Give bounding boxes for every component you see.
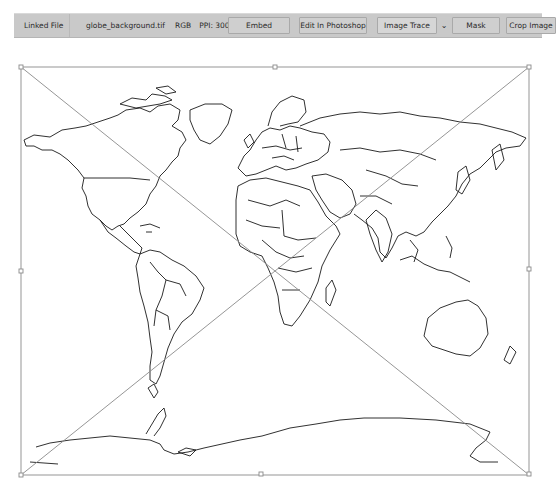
south-america-outline	[136, 250, 204, 384]
kamchatka	[492, 144, 504, 170]
handle-top-right[interactable]	[527, 65, 531, 69]
placed-image[interactable]	[0, 40, 554, 491]
embed-button[interactable]: Embed	[228, 17, 290, 34]
south-america-borders	[150, 262, 186, 330]
antarctic-peninsula	[146, 408, 166, 436]
control-bar: Linked File globe_background.tif RGB PPI…	[14, 13, 542, 38]
color-mode: RGB	[171, 21, 195, 30]
handle-top-center[interactable]	[273, 65, 277, 69]
mask-button[interactable]: Mask	[452, 17, 500, 34]
handle-top-left[interactable]	[19, 65, 23, 69]
handle-bottom-left[interactable]	[19, 473, 23, 477]
edit-in-photoshop-button[interactable]: Edit In Photoshop	[299, 17, 367, 34]
handle-middle-left[interactable]	[19, 269, 23, 273]
us-canada-border	[84, 178, 150, 180]
australia-outline	[424, 300, 488, 356]
tierra-del-fuego	[148, 384, 158, 398]
antarctica-small-shelf	[30, 448, 196, 464]
handle-bottom-right[interactable]	[527, 472, 531, 476]
europe-outline	[238, 126, 330, 176]
africa-borders	[246, 200, 316, 290]
file-name: globe_background.tif	[80, 21, 171, 30]
caribbean	[140, 224, 160, 232]
selection-bounding-box	[21, 67, 529, 475]
japan-outline	[456, 166, 470, 194]
handle-bottom-center[interactable]	[259, 472, 263, 476]
linked-file-label[interactable]: Linked File	[24, 21, 63, 30]
chevron-down-icon[interactable]: ⌄	[439, 17, 449, 34]
north-america-outline	[24, 104, 186, 230]
new-zealand	[504, 346, 516, 364]
linked-file-link[interactable]: Linked File	[14, 14, 70, 37]
asia-borders	[340, 148, 436, 204]
antarctica-outline	[36, 418, 498, 462]
europe-borders	[262, 134, 302, 160]
madagascar-outline	[326, 280, 336, 306]
southeast-asia-islands	[400, 236, 470, 282]
handle-middle-right[interactable]	[527, 267, 531, 271]
artboard-canvas[interactable]	[0, 40, 554, 491]
image-trace-button[interactable]: Image Trace	[377, 17, 437, 34]
greenland-outline	[190, 104, 232, 144]
world-map	[24, 86, 526, 464]
crop-image-button[interactable]: Crop Image	[506, 17, 556, 34]
scandinavia-outline	[268, 96, 306, 126]
